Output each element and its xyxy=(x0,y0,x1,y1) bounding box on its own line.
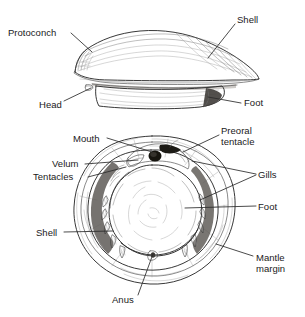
anatomy-illustration: Protoconch Shell Head Foot xyxy=(0,0,305,317)
anatomy-figure: Protoconch Shell Head Foot xyxy=(0,0,305,317)
leader-mantle-margin xyxy=(216,244,253,256)
leader-head xyxy=(64,88,91,101)
lateral-view-drawing xyxy=(74,30,259,108)
label-head: Head xyxy=(39,99,62,110)
label-gills: Gills xyxy=(258,169,277,180)
ventral-view-drawing xyxy=(74,136,235,284)
leader-preoral xyxy=(183,135,219,152)
lateral-labels: Protoconch Shell Head Foot xyxy=(8,14,263,110)
label-tentacles: Tentacles xyxy=(33,171,74,182)
label-mouth: Mouth xyxy=(73,133,100,144)
label-velum: Velum xyxy=(52,158,79,169)
preoral-dark-patch xyxy=(159,145,181,154)
label-protoconch: Protoconch xyxy=(8,27,56,38)
label-anus: Anus xyxy=(112,294,134,305)
label-shell-ventral: Shell xyxy=(36,227,57,238)
label-mantle-margin-line1: Mantle xyxy=(256,252,285,263)
leader-gills-upper xyxy=(192,161,256,174)
label-foot-lateral: Foot xyxy=(244,97,263,108)
label-foot-ventral: Foot xyxy=(258,201,277,212)
label-preoral-tentacle-line1: Preoral xyxy=(221,125,252,136)
gill-tufts xyxy=(102,194,206,258)
label-shell-lateral: Shell xyxy=(237,14,258,25)
leader-protoconch xyxy=(71,33,92,52)
head-lateral xyxy=(85,85,93,91)
sole-texture xyxy=(113,168,196,253)
shell-body-lateral xyxy=(75,30,259,80)
label-mantle-margin-line2: margin xyxy=(256,263,285,274)
label-preoral-tentacle-line2: tentacle xyxy=(221,136,254,147)
sole-granules xyxy=(129,181,183,240)
